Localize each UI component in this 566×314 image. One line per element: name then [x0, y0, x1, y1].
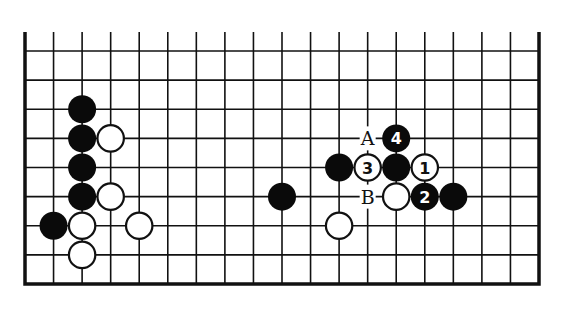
- black-stone: [268, 183, 296, 211]
- black-stone-icon: [325, 154, 353, 182]
- black-stone-icon: [68, 124, 96, 152]
- black-stone-icon: [382, 154, 410, 182]
- svg-text:A: A: [360, 127, 375, 149]
- move-number: 2: [419, 188, 430, 207]
- svg-text:B: B: [361, 186, 375, 208]
- move-number: 4: [391, 129, 402, 148]
- white-stone: [97, 183, 123, 209]
- black-stone-icon: [439, 183, 467, 211]
- white-stone: [126, 213, 152, 239]
- point-label-a: A: [360, 126, 376, 150]
- black-stone-icon: [68, 95, 96, 123]
- white-stone-icon: [69, 213, 95, 239]
- black-stone: [68, 183, 96, 211]
- black-stone: [439, 183, 467, 211]
- black-stone: [68, 124, 96, 152]
- black-stone-icon: [268, 183, 296, 211]
- white-stone-3: 3: [354, 154, 380, 180]
- go-board-diagram: AB 3142: [0, 0, 566, 314]
- white-stone-icon: [97, 125, 123, 151]
- black-stone-icon: [68, 183, 96, 211]
- white-stone: [383, 183, 409, 209]
- black-stone: [68, 95, 96, 123]
- white-stone-1: 1: [412, 154, 438, 180]
- white-stone-icon: [69, 242, 95, 268]
- point-label-b: B: [360, 185, 376, 209]
- white-stone-icon: [126, 213, 152, 239]
- black-stone: [382, 154, 410, 182]
- black-stone-icon: [40, 212, 68, 240]
- move-number: 3: [362, 159, 373, 178]
- white-stone: [69, 213, 95, 239]
- black-stone-4: 4: [382, 124, 410, 152]
- black-stone: [325, 154, 353, 182]
- white-stone: [69, 242, 95, 268]
- black-stone-2: 2: [411, 183, 439, 211]
- board-grid: [25, 32, 539, 284]
- white-stone: [326, 213, 352, 239]
- white-stone: [97, 125, 123, 151]
- black-stone-icon: [68, 154, 96, 182]
- white-stone-icon: [383, 183, 409, 209]
- white-stone-icon: [326, 213, 352, 239]
- black-stone: [40, 212, 68, 240]
- black-stone: [68, 154, 96, 182]
- move-number: 1: [419, 159, 430, 178]
- white-stone-icon: [97, 183, 123, 209]
